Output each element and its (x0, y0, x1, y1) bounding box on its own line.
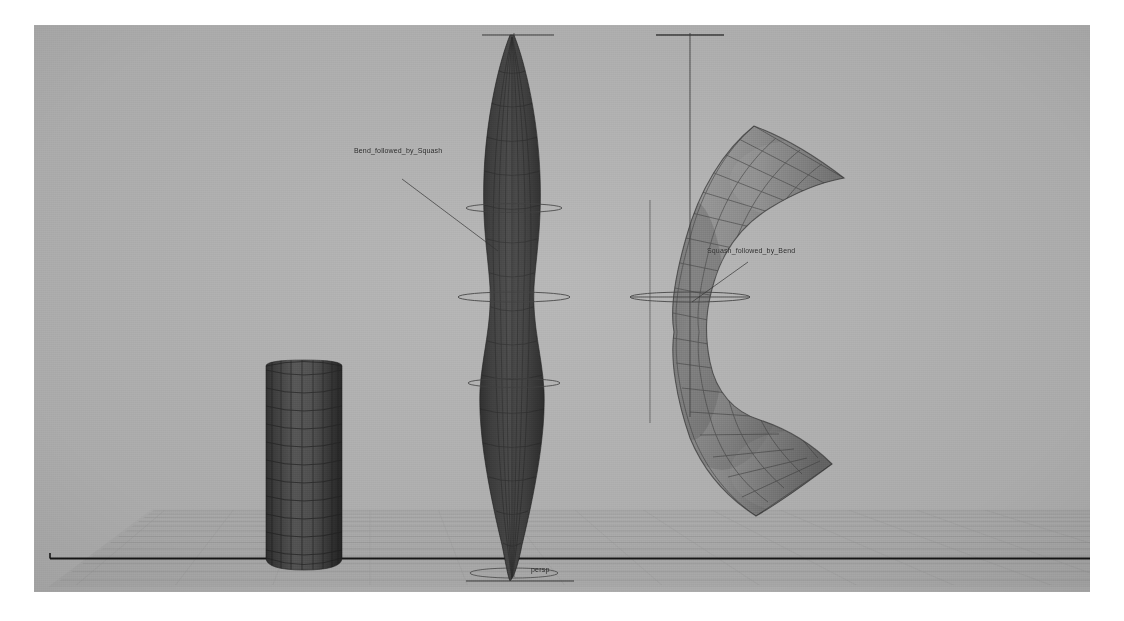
screenshot-root: Bend_followed_by_Squash Squash_followed_… (0, 0, 1124, 621)
object-base-cylinder[interactable] (224, 330, 384, 580)
viewport-name-label: persp (531, 566, 550, 573)
maya-perspective-viewport[interactable]: Bend_followed_by_Squash Squash_followed_… (34, 25, 1090, 592)
deformer-handle-middle[interactable] (424, 25, 604, 592)
annotation-squash-followed-by-bend: Squash_followed_by_Bend (707, 247, 795, 254)
leader-line-bend (334, 145, 514, 255)
annotation-bend-followed-by-squash: Bend_followed_by_Squash (354, 147, 442, 154)
